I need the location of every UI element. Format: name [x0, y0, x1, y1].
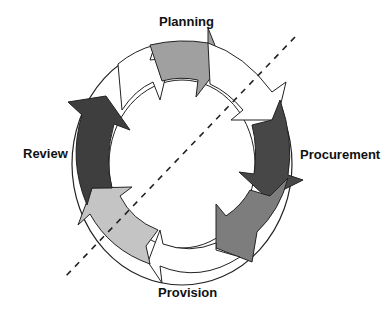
label-provision: Provision [158, 285, 217, 300]
arrow-planning-to-procurement [208, 43, 286, 120]
label-planning: Planning [159, 14, 214, 29]
arrow-provision-to-review [78, 187, 158, 264]
label-review: Review [23, 146, 68, 161]
label-procurement: Procurement [300, 147, 380, 162]
arrow-procurement-to-provision [216, 178, 288, 262]
